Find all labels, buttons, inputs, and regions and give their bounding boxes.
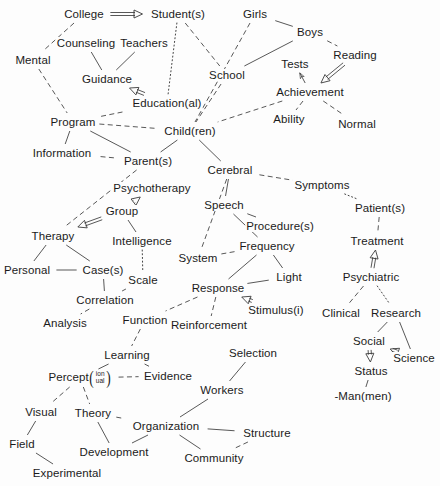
node-educational: Education(al): [131, 97, 202, 109]
edge-counseling-to-guidance: [91, 52, 102, 70]
node-ability: Ability: [272, 113, 305, 125]
edge-children-to-cerebral: [199, 140, 221, 161]
edge-organization-to-structure: [208, 429, 235, 431]
edge-group-to-therapy: [78, 217, 102, 228]
node-students: Student(s): [150, 8, 206, 20]
node-therapy: Therapy: [31, 230, 76, 242]
node-light: Light: [275, 271, 302, 283]
node-status: Status: [353, 365, 388, 377]
node-teachers: Teachers: [119, 37, 168, 49]
node-program: Program: [50, 116, 97, 128]
edge-achievement-to-tests: [300, 73, 305, 83]
node-function: Function: [122, 314, 169, 326]
percept-suffix-group: (ionual): [89, 372, 112, 385]
node-guidance: Guidance: [81, 73, 133, 85]
edge-educational-to-program: [99, 112, 122, 117]
edge-workers-to-organization: [180, 399, 208, 417]
edge-psychiatric-to-clinical: [349, 286, 364, 304]
edge-achievement-to-normal: [323, 101, 344, 115]
node-psychotherapy: Psychotherapy: [112, 182, 191, 194]
node-workers: Workers: [199, 384, 244, 396]
node-achievement: Achievement: [275, 86, 345, 98]
node-school: School: [208, 69, 246, 81]
edge-speech-to-procedures: [247, 214, 256, 217]
edge-organization-to-community: [180, 435, 201, 449]
node-girls: Girls: [242, 8, 268, 20]
node-percept: Percept(ionual): [47, 371, 112, 385]
edge-children-to-parents: [161, 140, 178, 152]
node-community: Community: [183, 452, 244, 464]
suffix-stack: ionual: [95, 372, 105, 385]
suffix-bottom: ual: [96, 378, 105, 385]
semantic-network-diagram: CollegeStudent(s)GirlsBoysCounselingTeac…: [0, 0, 440, 486]
node-cases: Case(s): [82, 264, 125, 276]
edge-percept-to-theory: [83, 387, 89, 404]
edge-field-to-experimental: [36, 453, 53, 464]
node-normal: Normal: [337, 118, 377, 130]
edge-scale-to-correlation: [122, 289, 126, 291]
node-tests: Tests: [280, 58, 309, 70]
edge-response-to-function: [166, 297, 198, 311]
node-information: Information: [32, 147, 93, 159]
edge-symptoms-to-patients: [345, 194, 358, 199]
node-science: Science: [392, 352, 436, 364]
edge-mental-to-program: [39, 69, 67, 113]
edge-program-to-parents: [90, 131, 130, 152]
edge-percept-to-visual: [51, 387, 69, 403]
edge-research-to-science: [400, 322, 411, 349]
edge-group-to-intelligence: [128, 220, 136, 232]
edge-parents-to-therapy: [64, 170, 136, 227]
node-social: Social: [352, 335, 386, 347]
edge-intelligence-to-scale: [142, 250, 143, 271]
node-research: Research: [370, 307, 422, 319]
edge-boys-to-reading: [327, 41, 337, 46]
edge-reading-to-achievement: [321, 63, 345, 83]
node-frequency: Frequency: [238, 240, 295, 252]
edge-stimulus-to-response: [242, 296, 253, 303]
edge-frequency-to-response: [229, 255, 257, 279]
node-learning: Learning: [103, 349, 151, 361]
edge-patients-to-treatment: [378, 217, 379, 232]
node-mental: Mental: [14, 54, 51, 66]
node-speech: Speech: [203, 199, 245, 211]
edge-light-to-response: [247, 280, 268, 283]
node-counseling: Counseling: [56, 37, 117, 49]
edge-teachers-to-guidance: [116, 52, 135, 70]
node-clinical: Clinical: [321, 307, 361, 319]
node-college: College: [63, 8, 105, 20]
edge-therapy-to-personal: [34, 245, 46, 261]
node-label: Percept: [48, 371, 88, 383]
node-intelligence: Intelligence: [111, 235, 172, 247]
node-development: Development: [79, 446, 150, 458]
edge-selection-to-workers: [230, 362, 246, 381]
left-paren: (: [90, 373, 95, 384]
edge-college-to-students: [110, 10, 142, 18]
node-correlation: Correlation: [75, 294, 134, 306]
edge-visual-to-field: [27, 421, 35, 435]
node-group: Group: [105, 205, 139, 217]
node-manmen: -Man(men): [333, 390, 392, 402]
node-psychiatric: Psychiatric: [342, 271, 401, 283]
edge-program-to-information: [65, 131, 70, 144]
edge-theory-to-organization: [116, 417, 124, 418]
node-parents: Parent(s): [123, 155, 173, 167]
edge-cerebral-to-symptoms: [259, 175, 292, 180]
node-scale: Scale: [127, 274, 158, 286]
edge-therapy-to-cases: [66, 245, 90, 261]
node-system: System: [178, 252, 219, 264]
edge-frequency-to-system: [221, 252, 234, 254]
edge-students-to-school: [185, 23, 220, 66]
node-field: Field: [8, 438, 35, 450]
edge-learning-to-evidence: [145, 364, 151, 367]
node-selection: Selection: [228, 347, 278, 359]
edge-organization-to-development: [132, 435, 148, 443]
node-evidence: Evidence: [143, 370, 193, 382]
node-theory: Theory: [74, 407, 112, 419]
edge-achievement-to-ability: [296, 101, 303, 110]
edge-psychiatric-to-research: [377, 286, 390, 304]
node-analysis: Analysis: [42, 317, 88, 329]
edge-social-to-status: [366, 350, 374, 362]
edge-theory-to-development: [98, 422, 109, 443]
node-patients: Patient(s): [354, 202, 406, 214]
node-procedures: Procedure(s): [245, 220, 315, 232]
